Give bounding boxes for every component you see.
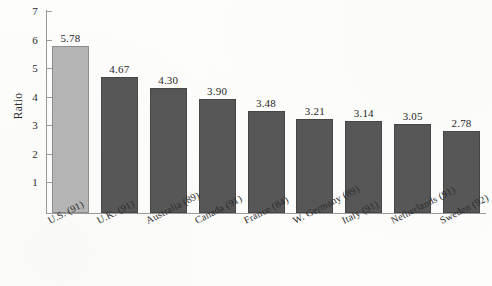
y-tick-label: 4 <box>0 91 38 102</box>
bar-value-label: 5.78 <box>60 32 80 44</box>
y-tick-label: 2 <box>0 148 38 159</box>
bar[interactable] <box>52 46 89 213</box>
y-tick-label: 5 <box>0 63 38 74</box>
bar-column[interactable]: 4.67 <box>101 77 138 213</box>
bar-column[interactable]: 4.30 <box>150 88 187 213</box>
y-tick-label: 6 <box>0 34 38 45</box>
bar-value-label: 3.05 <box>403 110 423 122</box>
chart-figure: Ratio 7654321 5.784.674.303.903.483.213.… <box>0 0 492 286</box>
bar-value-label: 4.30 <box>158 74 178 86</box>
bar-value-label: 2.78 <box>452 117 472 129</box>
y-tick-label: 3 <box>0 120 38 131</box>
y-tick-label: 7 <box>0 6 38 17</box>
bar-column[interactable]: 5.78 <box>52 46 89 213</box>
bar-value-label: 4.67 <box>109 63 129 75</box>
plot-area: 5.784.674.303.903.483.213.143.052.78 <box>46 8 486 214</box>
bar-value-label: 3.21 <box>305 105 325 117</box>
y-tick-label: 1 <box>0 177 38 188</box>
bar-value-label: 3.14 <box>354 107 374 119</box>
bar[interactable] <box>101 77 138 213</box>
bar[interactable] <box>150 88 187 213</box>
bar-value-label: 3.90 <box>207 85 227 97</box>
bar-value-label: 3.48 <box>256 97 276 109</box>
